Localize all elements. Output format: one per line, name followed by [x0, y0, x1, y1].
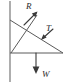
vector-T: T [41, 23, 53, 40]
force-diagram-figure: R T W [0, 0, 69, 83]
vector-R-label: R [25, 1, 32, 11]
vector-R: R [24, 1, 38, 25]
vector-W-arrowhead [33, 67, 40, 75]
vector-W-label: W [42, 69, 51, 79]
vector-W: W [33, 53, 51, 79]
vector-T-label: T [46, 23, 52, 33]
force-diagram-canvas: R T W [0, 0, 69, 83]
diagonal-strut-line [10, 20, 63, 53]
